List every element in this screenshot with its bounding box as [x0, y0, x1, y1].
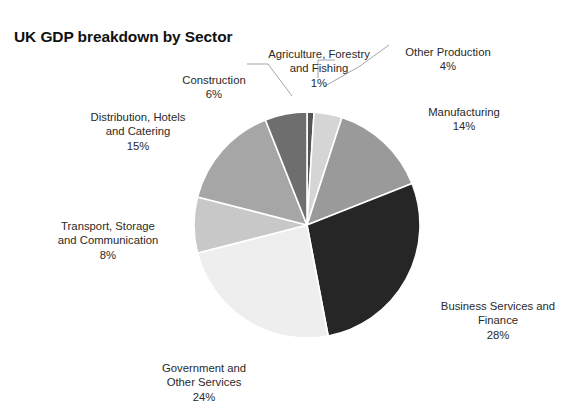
slice-label-agriculture: Agriculture, Forestry and Fishing 1% [258, 32, 380, 105]
slice-label-government-text: Government and Other Services [162, 362, 246, 389]
slice-label-manufacturing-text: Manufacturing [428, 106, 500, 118]
pie-slice-group [194, 112, 420, 338]
slice-label-agriculture-text: Agriculture, Forestry and Fishing [268, 48, 370, 75]
slice-label-business-services-percent: 28% [428, 328, 568, 343]
slice-label-other-production-text: Other Production [405, 46, 490, 58]
slice-label-manufacturing-percent: 14% [400, 119, 528, 134]
slice-label-transport-text: Transport, Storage and Communication [58, 220, 158, 247]
slice-label-government-percent: 24% [122, 390, 286, 405]
slice-label-manufacturing: Manufacturing 14% [400, 90, 528, 148]
slice-label-other-production: Other Production 4% [386, 30, 510, 88]
slice-label-transport-percent: 8% [30, 248, 186, 263]
slice-label-other-production-percent: 4% [386, 59, 510, 74]
slice-label-agriculture-percent: 1% [258, 76, 380, 91]
slice-label-construction-percent: 6% [158, 87, 270, 102]
slice-label-business-services-text: Business Services and Finance [441, 300, 555, 327]
slice-label-government: Government and Other Services 24% [122, 346, 286, 409]
slice-label-transport: Transport, Storage and Communication 8% [30, 204, 186, 277]
slice-label-construction: Construction 6% [158, 58, 270, 116]
slice-label-construction-text: Construction [182, 74, 245, 86]
slice-label-business-services: Business Services and Finance 28% [428, 284, 568, 357]
pie-chart-figure: UK GDP breakdown by Sector Agriculture, … [0, 0, 580, 409]
slice-label-distribution-percent: 15% [58, 139, 218, 154]
